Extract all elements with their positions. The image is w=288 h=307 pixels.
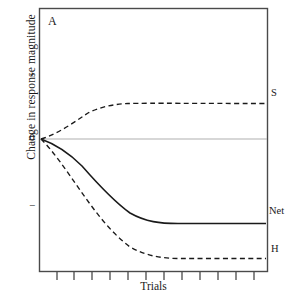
curve-h (41, 139, 266, 259)
series-label-s: S (271, 87, 277, 98)
y-tick-label-zero: 0 (24, 131, 40, 143)
x-axis-label: Trials (39, 280, 268, 292)
y-tick-label-plus: + (24, 68, 40, 80)
plot-frame (40, 9, 268, 272)
x-axis-ticks (57, 272, 254, 280)
panel-letter: A (48, 14, 57, 29)
cropped-caption (44, 301, 249, 307)
curve-net (41, 139, 266, 224)
chart-canvas (0, 0, 288, 307)
series-label-h: H (271, 243, 279, 254)
y-axis-label: Change in response magnitude (25, 0, 37, 197)
curve-s (41, 103, 266, 139)
series-label-net: Net (269, 205, 284, 216)
figure-panel-a: A Change in response magnitude + 0 − Tri… (0, 0, 288, 307)
y-tick-label-minus: − (24, 199, 40, 211)
